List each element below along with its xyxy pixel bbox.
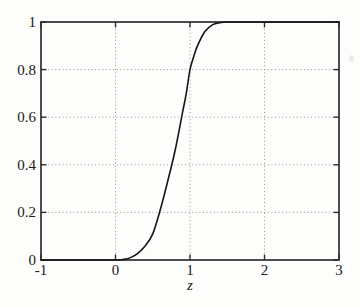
y-tick-label: 0.2 (17, 204, 36, 220)
x-tick-label: 0 (112, 262, 120, 278)
y-tick-label: 0.4 (17, 157, 36, 173)
x-tick-label: 3 (335, 262, 343, 278)
cdf-chart: -1012300.20.40.60.81z (0, 0, 360, 306)
plot-canvas: -1012300.20.40.60.81z (0, 0, 360, 306)
figure-page: -1012300.20.40.60.81z (0, 0, 360, 306)
x-tick-label: 1 (186, 262, 194, 278)
y-tick-label: 1 (29, 14, 37, 30)
scan-artifact (348, 54, 355, 63)
x-axis-label: z (186, 277, 193, 293)
y-tick-label: 0.8 (17, 62, 36, 78)
y-tick-label: 0 (29, 252, 37, 268)
x-tick-label: 2 (261, 262, 269, 278)
x-tick-label: -1 (35, 262, 48, 278)
y-tick-label: 0.6 (17, 109, 36, 125)
